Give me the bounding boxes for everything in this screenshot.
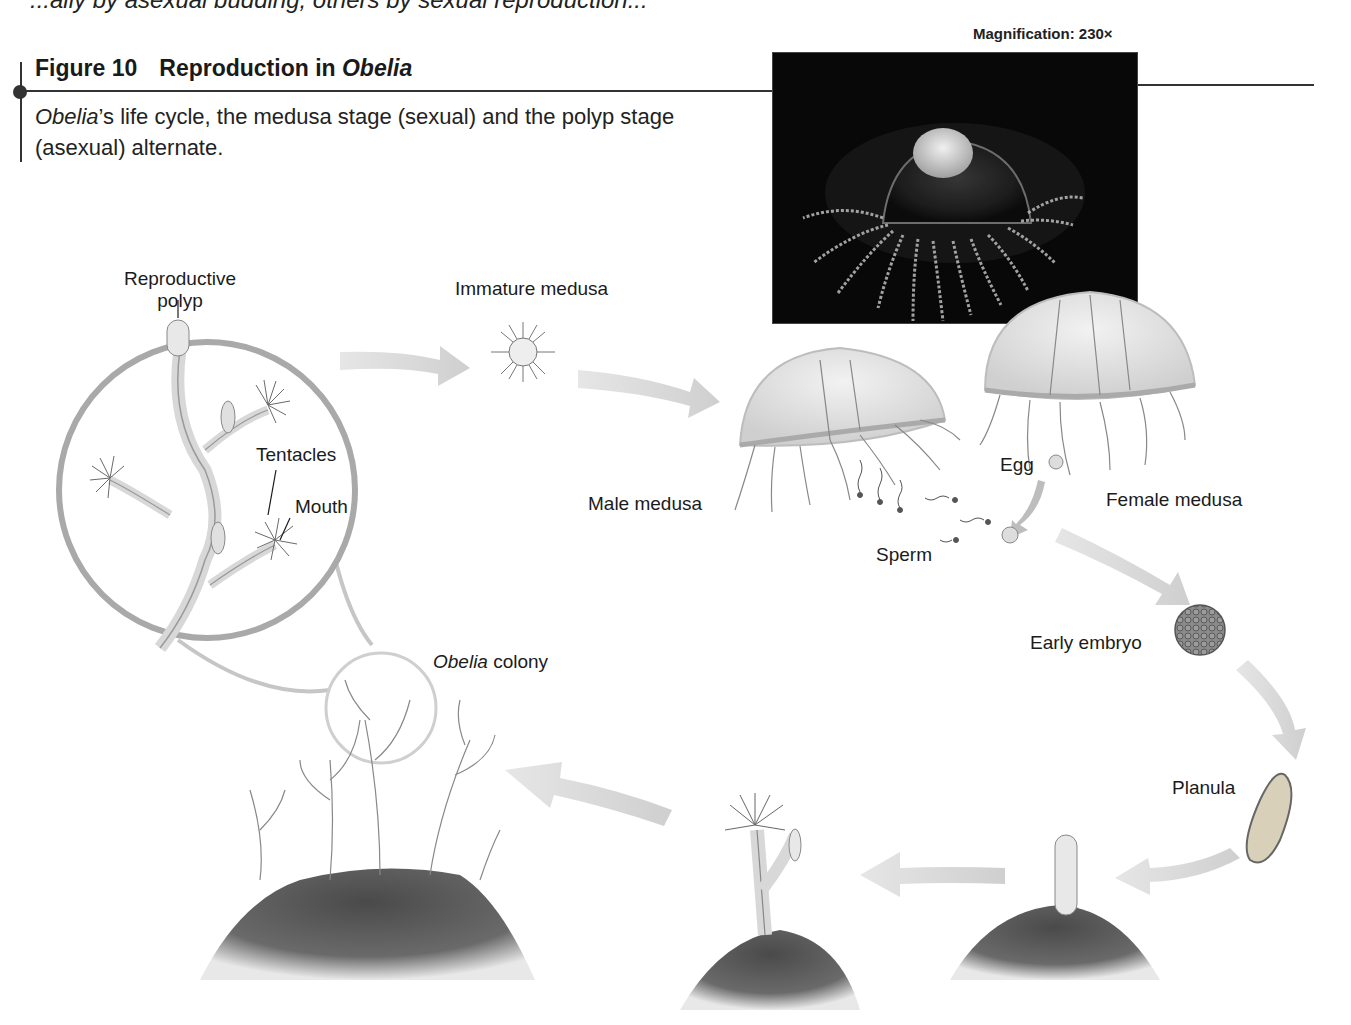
- early-embryo-illustration: [1175, 605, 1225, 655]
- label-female-medusa: Female medusa: [1106, 489, 1242, 511]
- label-obelia-colony: Obelia colony: [433, 651, 548, 673]
- label-obelia-colony-text: colony: [488, 651, 548, 672]
- label-obelia-colony-genus: Obelia: [433, 651, 488, 672]
- label-reproductive-polyp-line2: polyp: [110, 290, 250, 312]
- label-male-medusa: Male medusa: [588, 493, 702, 515]
- label-immature-medusa: Immature medusa: [455, 278, 608, 300]
- arrow-medusa-to-embryo: [1055, 528, 1190, 605]
- young-polyp-illustration: [950, 835, 1160, 980]
- label-reproductive-polyp-line1: Reproductive: [110, 268, 250, 290]
- label-egg: Egg: [1000, 454, 1034, 476]
- arrow-budding-to-colony: [505, 762, 672, 826]
- label-sperm: Sperm: [876, 544, 932, 566]
- arrow-polyp-to-immature: [340, 346, 470, 386]
- arrow-immature-to-medusa: [578, 370, 720, 418]
- label-mouth: Mouth: [295, 496, 348, 518]
- arrow-embryo-to-planula: [1236, 660, 1306, 760]
- label-planula: Planula: [1172, 777, 1235, 799]
- planula-illustration: [1247, 774, 1292, 863]
- obelia-colony-illustration: [200, 680, 535, 980]
- label-early-embryo: Early embryo: [1030, 632, 1142, 654]
- immature-medusa-illustration: [491, 322, 555, 382]
- male-medusa-illustration: [735, 348, 991, 543]
- arrow-young-to-budding: [860, 852, 1005, 897]
- colony-highlight-circle: [326, 653, 436, 763]
- budding-polyp-illustration: [680, 793, 860, 1010]
- arrow-planula-to-young-polyp: [1115, 848, 1240, 895]
- label-reproductive-polyp: Reproductive polyp: [110, 268, 250, 312]
- label-tentacles: Tentacles: [256, 444, 336, 466]
